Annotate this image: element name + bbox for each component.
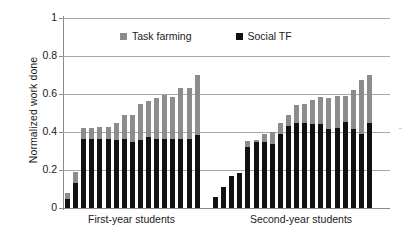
bar [278, 123, 283, 208]
bar [343, 96, 348, 208]
bar [229, 176, 234, 208]
bar-segment-social-tf [270, 144, 275, 208]
bar-segment-task-farming [170, 97, 175, 139]
bar-segment-task-farming [97, 127, 102, 138]
y-tick-label-0_4: 0.4 [11, 125, 57, 137]
bar-segment-social-tf [97, 139, 102, 208]
bar [122, 115, 127, 208]
bar-segment-social-tf [187, 139, 192, 208]
bar-segment-social-tf [286, 126, 291, 208]
bar-segment-social-tf [367, 123, 372, 209]
bar-segment-task-farming [187, 88, 192, 138]
legend-label-social-tf: Social TF [248, 30, 292, 42]
bar [302, 104, 307, 209]
bar-segment-task-farming [130, 115, 135, 142]
bar [286, 115, 291, 208]
bar-segment-social-tf [343, 122, 348, 208]
bar-segment-task-farming [359, 80, 364, 134]
bar-segment-social-tf [229, 176, 234, 208]
bar-segment-task-farming [318, 97, 323, 125]
bar-segment-social-tf [351, 129, 356, 208]
bar [162, 95, 167, 208]
bar-segment-social-tf [138, 140, 143, 208]
bar [270, 132, 275, 208]
bar [213, 197, 218, 208]
bar [359, 80, 364, 208]
legend-label-task-farming: Task farming [132, 30, 192, 42]
bar [187, 88, 192, 208]
bar [154, 98, 159, 208]
bar-segment-task-farming [245, 141, 250, 148]
bar-segment-task-farming [89, 128, 94, 138]
bar-segment-social-tf [302, 123, 307, 208]
bar-segment-social-tf [245, 147, 250, 208]
bar [318, 97, 323, 208]
bar-segment-social-tf [146, 137, 151, 208]
y-tick-label-1: 1 [11, 11, 57, 23]
bar-segment-task-farming [351, 90, 356, 129]
bar-segment-social-tf [154, 139, 159, 208]
bar-segment-task-farming [138, 104, 143, 139]
bar-segment-task-farming [162, 95, 167, 139]
bar [367, 75, 372, 208]
bar [254, 140, 259, 208]
bar-segment-social-tf [65, 199, 70, 209]
bar [237, 173, 242, 208]
bar [114, 123, 119, 209]
bar [262, 134, 267, 208]
bar-segment-social-tf [262, 142, 267, 209]
y-tick-label-0_2: 0.2 [11, 163, 57, 175]
bar-segment-task-farming [302, 104, 307, 124]
y-tick-label-0_6: 0.6 [11, 87, 57, 99]
bar-segment-task-farming [154, 98, 159, 139]
bar-segment-task-farming [270, 132, 275, 144]
bar-segment-task-farming [195, 75, 200, 135]
bar-segment-social-tf [335, 128, 340, 208]
bar-segment-social-tf [122, 139, 127, 208]
scan-artifact [399, 128, 402, 129]
bar [81, 128, 86, 208]
bar [335, 96, 340, 208]
bar-segment-social-tf [254, 142, 259, 208]
bar-segment-social-tf [359, 134, 364, 208]
bar-segment-task-farming [106, 127, 111, 138]
bar-segment-task-farming [73, 172, 78, 183]
bar-segment-social-tf [221, 187, 226, 208]
bar [89, 128, 94, 208]
bar-segment-social-tf [130, 142, 135, 209]
bar-segment-social-tf [114, 140, 119, 208]
bar-segment-task-farming [262, 134, 267, 142]
bar-segment-task-farming [278, 123, 283, 133]
bar-segment-social-tf [237, 173, 242, 208]
bar-segment-task-farming [114, 123, 119, 140]
bar-segment-task-farming [367, 75, 372, 123]
bar [221, 187, 226, 208]
bar-segment-task-farming [178, 88, 183, 138]
bar-segment-social-tf [326, 129, 331, 208]
bar [138, 104, 143, 208]
bar-segment-task-farming [343, 96, 348, 122]
y-tick-label-0: 0 [11, 201, 57, 213]
bar-segment-social-tf [89, 139, 94, 208]
bar-segment-social-tf [81, 139, 86, 208]
gridline-0 [63, 208, 390, 209]
bar-segment-social-tf [310, 124, 315, 208]
y-tick-mark-0 [59, 208, 63, 209]
bar-segment-task-farming [81, 128, 86, 138]
bar-segment-task-farming [146, 101, 151, 137]
bar [195, 75, 200, 208]
bar-segment-social-tf [213, 197, 218, 208]
bar-segment-social-tf [318, 124, 323, 208]
bar-segment-task-farming [122, 115, 127, 139]
bar [294, 105, 299, 208]
bar [65, 193, 70, 208]
bar [73, 172, 78, 208]
group-label-first-year: First-year students [63, 213, 200, 225]
bar-segment-task-farming [286, 115, 291, 126]
chart-legend: Task farming Social TF [120, 30, 292, 42]
bar-segment-social-tf [106, 139, 111, 208]
bar-segment-task-farming [310, 100, 315, 125]
plot-area: 00.20.40.60.81 [63, 18, 390, 208]
bar [178, 88, 183, 208]
bar [97, 127, 102, 208]
